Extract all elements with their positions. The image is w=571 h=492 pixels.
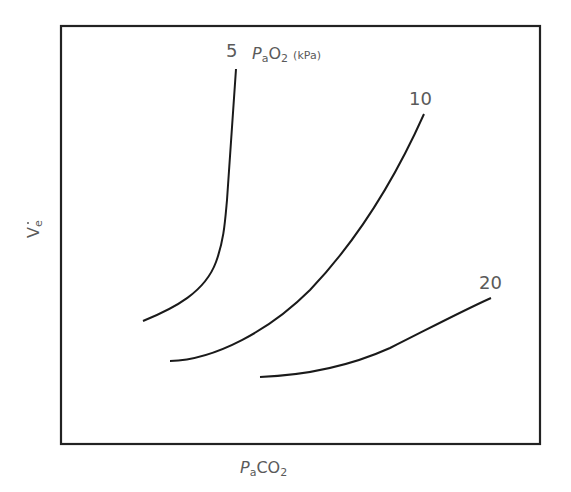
legend-o: O <box>268 44 281 63</box>
curve-pao2-20 <box>260 298 491 377</box>
legend-title: PaO2 (kPa) <box>252 44 321 65</box>
legend-p: P <box>252 44 262 63</box>
legend-unit: (kPa) <box>293 49 321 62</box>
curve-pao2-10 <box>170 114 424 361</box>
legend-subscript-2: 2 <box>281 52 288 65</box>
y-label-v: V <box>24 227 43 238</box>
curve-label-10: 10 <box>409 88 432 109</box>
curve-label-5: 5 <box>226 40 237 61</box>
curve-pao2-5 <box>143 69 236 321</box>
chart-canvas <box>0 0 571 492</box>
plot-frame <box>61 26 540 444</box>
y-label-dot <box>27 222 29 224</box>
y-label-subscript-e: e <box>32 220 45 227</box>
x-label-subscript-2: 2 <box>280 466 287 479</box>
curve-label-20: 20 <box>479 272 502 293</box>
x-label-p: P <box>240 458 250 477</box>
x-axis-label: PaCO2 <box>240 458 287 479</box>
x-label-co: CO <box>256 458 280 477</box>
